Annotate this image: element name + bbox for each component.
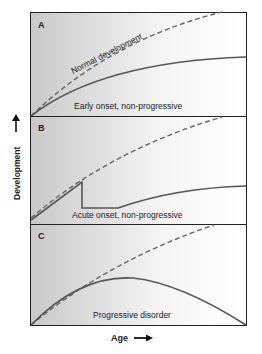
right-arrow-icon (134, 335, 153, 342)
panel-c-caption: Progressive disorder (93, 310, 171, 320)
panel-a-letter: A (38, 20, 45, 30)
panel-b-caption: Acute onset, non-progressive (72, 210, 183, 220)
panel-a: A Normal development Early onset, non-pr… (31, 12, 247, 117)
panel-c-letter: C (38, 231, 45, 241)
up-arrow-icon (12, 114, 20, 132)
panel-a-caption: Early onset, non-progressive (74, 101, 182, 111)
developmental-trajectories-diagram: A Normal development Early onset, non-pr… (0, 0, 262, 354)
panel-b: B Acute onset, non-progressive (31, 117, 247, 225)
y-axis-label: Development (12, 146, 22, 200)
panel-c: C Progressive disorder (31, 225, 247, 326)
y-axis-label-group: Development (12, 114, 22, 200)
panel-b-letter: B (38, 123, 45, 133)
x-axis-label: Age (111, 333, 128, 343)
x-axis-label-group: Age (111, 333, 153, 343)
